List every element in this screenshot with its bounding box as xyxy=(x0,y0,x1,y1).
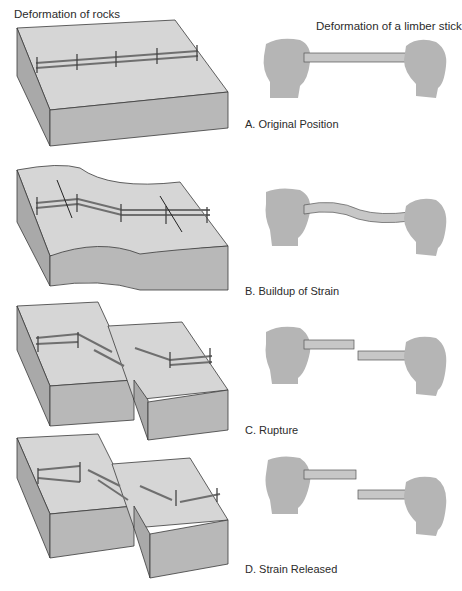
right-hand-icon xyxy=(404,337,446,396)
left-hand-icon xyxy=(266,327,311,384)
stick-released xyxy=(230,430,459,550)
stage-a-label: A. Original Position xyxy=(245,118,339,130)
stage-d-label: D. Strain Released xyxy=(245,563,337,575)
stick-right-piece xyxy=(358,351,408,360)
rock-block-original xyxy=(0,0,240,150)
stick-strain xyxy=(230,150,459,260)
right-hand-icon xyxy=(404,477,446,536)
left-hand-icon xyxy=(266,456,311,514)
stick-rupture xyxy=(230,290,459,410)
stick-left-piece xyxy=(304,470,356,479)
right-hand-icon xyxy=(404,40,446,98)
left-hand-icon xyxy=(266,188,311,246)
left-hand-icon xyxy=(264,39,311,98)
stick-right-piece xyxy=(358,490,408,499)
stick xyxy=(304,202,410,222)
rock-block-released xyxy=(0,430,240,590)
rock-block-rupture xyxy=(0,290,240,440)
stick xyxy=(304,53,410,62)
stick-left-piece xyxy=(304,340,354,349)
right-hand-icon xyxy=(404,199,446,256)
rock-block-strain xyxy=(0,150,240,290)
stick-original xyxy=(230,0,459,110)
